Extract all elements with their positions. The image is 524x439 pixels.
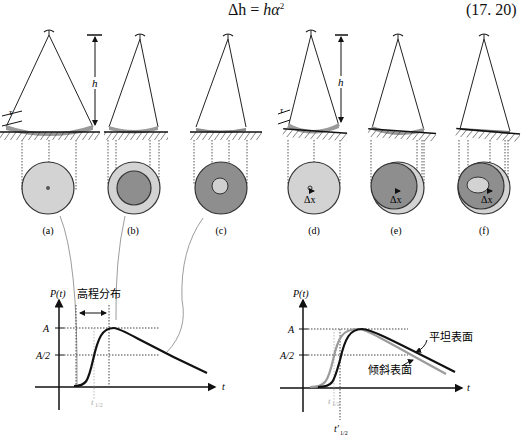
label-b: (b) <box>127 225 139 237</box>
label-e: (e) <box>390 225 401 237</box>
svg-text:1/2: 1/2 <box>95 402 103 408</box>
chart1-ylabel: P(t) <box>49 288 66 300</box>
panel-a-beam: h τ <box>0 30 102 140</box>
panel-c-beam <box>190 34 262 140</box>
dx-label-f: Δx <box>481 194 492 205</box>
label-a: (a) <box>42 225 53 237</box>
h-label-a: h <box>92 77 98 89</box>
svg-text:1/2: 1/2 <box>340 430 348 436</box>
dx-label-e: Δx <box>390 194 401 205</box>
svg-text:1/2: 1/2 <box>332 401 340 407</box>
chart-2: P(t) t A A/2 平坦表面 倾斜表面 t 1/2 t′ 1/2 <box>279 288 473 436</box>
panel-b-beam <box>104 34 168 140</box>
footprint-d <box>288 162 340 214</box>
chart2-tick-A2: A/2 <box>279 350 294 361</box>
panel-f-beam <box>456 34 520 142</box>
chart1-range-label: 高程分布 <box>77 287 121 301</box>
panel-d-beam: h τ <box>278 30 348 141</box>
chart2-xlabel: t <box>467 382 470 393</box>
label-c: (c) <box>215 225 226 237</box>
chart1-tick-A2: A/2 <box>35 350 50 361</box>
tau-label-d: τ <box>280 105 284 115</box>
chart1-xlabel: t <box>222 381 225 392</box>
chart1-tick-A: A <box>42 323 50 334</box>
chart2-t-half-prime: t′ <box>334 423 340 434</box>
dx-label-d: Δx <box>304 194 315 205</box>
chart2-tick-A: A <box>287 324 295 335</box>
h-label-d: h <box>338 76 344 88</box>
label-f: (f) <box>479 225 489 237</box>
chart-1: P(t) t A A/2 高程分布 t 1/2 <box>35 287 225 410</box>
tau-label-a: τ <box>9 107 13 117</box>
diagram-canvas: h τ (a) (b) (c) <box>0 0 524 439</box>
chart2-ylabel: P(t) <box>292 288 309 300</box>
chart2-t-half: t <box>328 396 331 406</box>
label-d: (d) <box>308 225 320 237</box>
panel-e-beam <box>368 34 436 141</box>
chart2-flat-label: 平坦表面 <box>429 330 473 344</box>
chart2-tilted-label: 倾斜表面 <box>368 363 412 377</box>
